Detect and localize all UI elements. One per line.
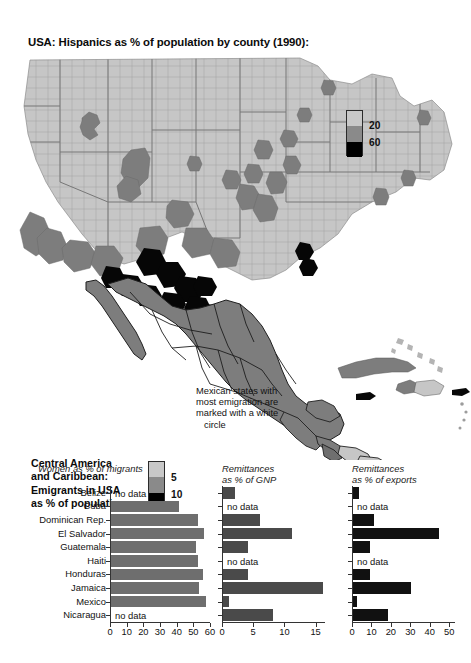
category-label: Guatemala	[60, 542, 106, 551]
bar-row	[222, 608, 325, 622]
no-data-label: no data	[115, 487, 146, 498]
y-tick	[106, 547, 110, 548]
bar-row: no data	[352, 500, 455, 514]
page-title: USA: Hispanics as % of population by cou…	[28, 36, 309, 48]
y-tick	[348, 561, 352, 562]
bar-row: no data	[352, 554, 455, 568]
bar	[111, 569, 203, 581]
x-tick-label: 50	[444, 627, 454, 637]
bar-row	[110, 595, 210, 609]
legend-swatch-low	[347, 111, 362, 126]
map-stage: 20 60 5 10 Central America and Caribbean…	[0, 52, 471, 460]
bar	[111, 541, 196, 553]
category-labels: BelizeCubaDominican Rep.El SalvadorGuate…	[0, 486, 106, 622]
bar	[223, 528, 292, 540]
bar	[353, 596, 357, 608]
y-tick	[348, 534, 352, 535]
category-label: Mexico	[76, 597, 106, 606]
y-tick	[106, 615, 110, 616]
caribbean-layer	[338, 338, 470, 430]
bar	[353, 528, 439, 540]
bar	[223, 541, 248, 553]
x-tick-label: 40	[425, 627, 435, 637]
y-tick	[348, 493, 352, 494]
annotation-line-2: most emigration are	[196, 397, 314, 408]
y-tick	[218, 534, 222, 535]
category-label: Jamaica	[71, 583, 106, 592]
bar-row: no data	[110, 608, 210, 622]
x-tick-label: 30	[405, 627, 415, 637]
y-tick	[218, 574, 222, 575]
y-tick	[106, 520, 110, 521]
bar-row	[352, 527, 455, 541]
bar-row	[110, 540, 210, 554]
bar-row	[110, 568, 210, 582]
x-tick-label: 50	[188, 627, 198, 637]
chart-title: Women as % of migrants	[38, 463, 143, 474]
bar-row: no data	[110, 486, 210, 500]
x-axis-ticks: 051015	[222, 627, 325, 641]
bar-row	[352, 540, 455, 554]
bar-row	[110, 527, 210, 541]
bar	[353, 514, 374, 526]
legend-swatch-mid	[347, 126, 362, 141]
bar	[223, 609, 273, 621]
bar	[223, 569, 248, 581]
bar-row	[222, 540, 325, 554]
y-tick	[218, 588, 222, 589]
category-label: Dominican Rep.	[39, 515, 106, 524]
y-tick	[348, 506, 352, 507]
bar-row: no data	[222, 500, 325, 514]
x-tick-label: 20	[138, 627, 148, 637]
bar	[223, 582, 323, 594]
bar-row	[110, 554, 210, 568]
y-tick	[348, 520, 352, 521]
bar-row	[222, 527, 325, 541]
legend-swatch-high	[347, 142, 362, 157]
y-tick	[106, 506, 110, 507]
x-tick-label: 40	[171, 627, 181, 637]
chart-title-line: Women as % of migrants	[38, 463, 143, 474]
chart-title-line: Remittances	[222, 463, 276, 474]
x-axis-line	[352, 622, 455, 623]
category-label: Belize	[80, 488, 106, 497]
x-tick-label: 5	[251, 627, 256, 637]
x-tick-label: 10	[121, 627, 131, 637]
y-tick	[106, 602, 110, 603]
x-axis-line	[222, 622, 325, 623]
bar	[111, 501, 179, 513]
bar-row	[222, 595, 325, 609]
charts-panel: Women as % of migrantsno datano dataBeli…	[0, 460, 471, 663]
no-data-label: no data	[357, 501, 388, 512]
plot-area: no datano data	[110, 486, 210, 622]
bar	[111, 596, 206, 608]
chart-title: Remittancesas % of GNP	[222, 463, 276, 486]
chart-title-line: Remittances	[352, 463, 417, 474]
y-tick	[218, 615, 222, 616]
bar-row	[352, 568, 455, 582]
legend-label-60: 60	[369, 138, 380, 148]
y-tick	[106, 534, 110, 535]
category-label: Cuba	[84, 501, 106, 510]
y-tick	[218, 547, 222, 548]
bar-row	[110, 500, 210, 514]
bar-row	[222, 568, 325, 582]
bar	[353, 541, 370, 553]
y-tick	[218, 602, 222, 603]
bar	[111, 555, 198, 567]
y-tick	[348, 602, 352, 603]
x-tick-label: 0	[349, 627, 354, 637]
bar	[223, 596, 229, 608]
category-label: Nicaragua	[63, 610, 106, 619]
no-data-label: no data	[357, 555, 388, 566]
y-tick	[218, 520, 222, 521]
y-tick	[348, 547, 352, 548]
y-tick	[106, 588, 110, 589]
y-tick	[348, 615, 352, 616]
bar-row	[222, 581, 325, 595]
bar	[111, 582, 199, 594]
chart-title-line: as % of exports	[352, 474, 417, 485]
bar-row: no data	[222, 554, 325, 568]
annotation-line-4: circle	[196, 420, 314, 431]
no-data-label: no data	[227, 501, 258, 512]
